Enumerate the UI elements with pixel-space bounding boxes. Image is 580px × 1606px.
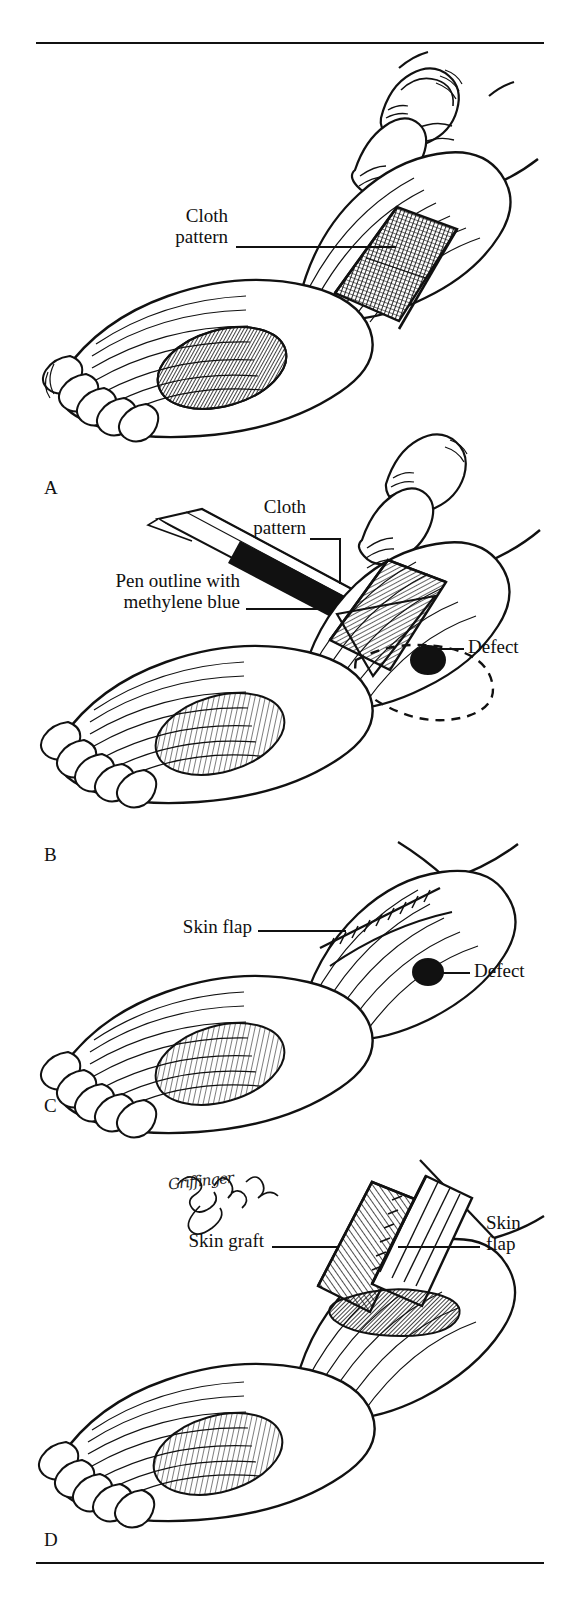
panel-letter-d: D bbox=[44, 1530, 58, 1549]
panel-b: B Cloth pattern Pen outline with methyle… bbox=[0, 430, 580, 870]
label-skin-graft-d: Skin graft bbox=[140, 1230, 264, 1251]
label-pen-outline: Pen outline with methylene blue bbox=[22, 570, 240, 613]
label-cloth-pattern-a: Cloth pattern bbox=[102, 205, 228, 248]
leader-cloth-pattern-b-vertical bbox=[339, 538, 341, 584]
leader-skin-flap-d bbox=[398, 1246, 480, 1248]
label-defect-b: Defect bbox=[468, 636, 568, 657]
leader-pen-outline bbox=[246, 608, 318, 610]
leader-cloth-pattern-b bbox=[310, 538, 340, 540]
label-cloth-pattern-b: Cloth pattern bbox=[182, 496, 306, 539]
top-divider-rule bbox=[36, 42, 544, 44]
bottom-divider-rule bbox=[36, 1562, 544, 1564]
label-skin-flap-c: Skin flap bbox=[138, 916, 252, 937]
leader-cloth-pattern-a bbox=[236, 246, 396, 248]
leader-skin-flap-c bbox=[258, 930, 346, 932]
figure-root: A Cloth pattern B Cloth pattern Pen outl… bbox=[0, 0, 580, 1606]
label-defect-c: Defect bbox=[474, 960, 574, 981]
panel-c: C Skin flap Defect bbox=[0, 820, 580, 1150]
panel-letter-c: C bbox=[44, 1096, 57, 1115]
leader-defect-b bbox=[420, 648, 464, 650]
panel-d: D Skin graft Skin flap bbox=[0, 1130, 580, 1560]
label-skin-flap-d: Skin flap bbox=[486, 1212, 576, 1255]
leader-skin-graft-d bbox=[272, 1246, 338, 1248]
leader-defect-c bbox=[430, 972, 470, 974]
